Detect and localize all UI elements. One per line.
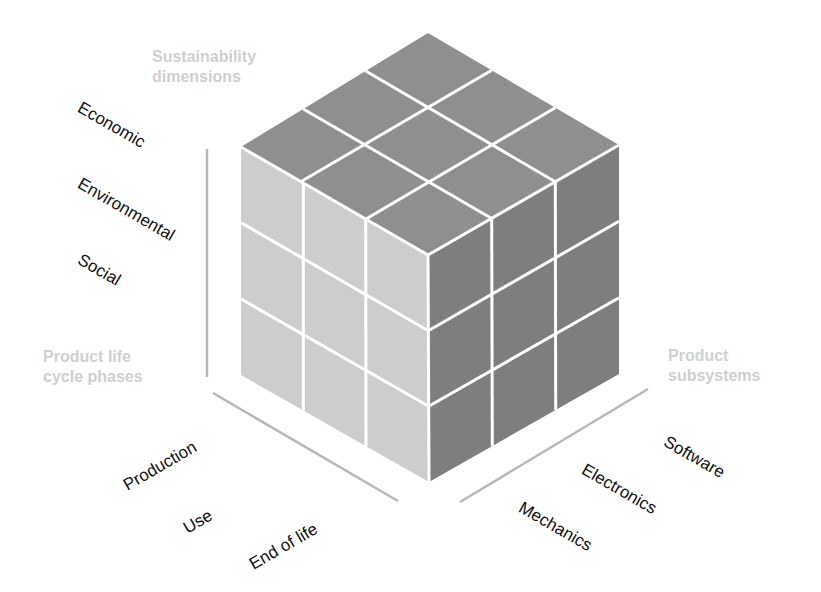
title-line-2: subsystems: [668, 366, 761, 386]
sustainability-cube-diagram: Sustainability dimensions Product life c…: [0, 0, 821, 592]
product-life-cycle-phases-title: Product life cycle phases: [43, 347, 143, 387]
title-line-1: Product: [668, 346, 761, 366]
product-subsystems-title: Product subsystems: [668, 346, 761, 386]
title-line-1: Product life: [43, 347, 143, 367]
title-line-1: Sustainability: [152, 47, 256, 67]
title-line-2: cycle phases: [43, 367, 143, 387]
sustainability-dimensions-title: Sustainability dimensions: [152, 47, 256, 87]
cube-graphic: [0, 0, 821, 592]
title-line-2: dimensions: [152, 67, 256, 87]
